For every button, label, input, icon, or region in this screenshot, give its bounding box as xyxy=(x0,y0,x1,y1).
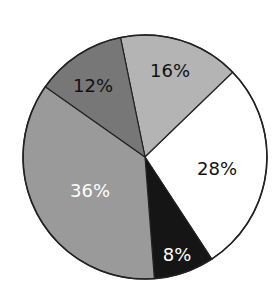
slice-label: 36% xyxy=(70,180,110,201)
slice-label: 28% xyxy=(197,158,237,179)
slice-label: 12% xyxy=(73,75,113,96)
slice-label: 16% xyxy=(150,60,190,81)
slice-label: 8% xyxy=(163,244,192,265)
pie-chart: 16%28%8%36%12% xyxy=(0,0,280,306)
